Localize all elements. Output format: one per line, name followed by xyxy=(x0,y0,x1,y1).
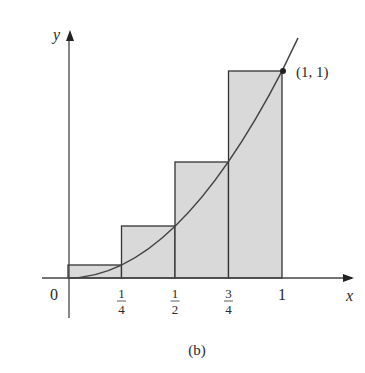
y-axis-arrow-icon xyxy=(66,30,74,41)
tick-numerator: 1 xyxy=(172,286,179,301)
origin-label: 0 xyxy=(50,286,58,303)
rectangle-1 xyxy=(68,265,122,278)
tick-label-one: 1 xyxy=(278,286,286,303)
tick-numerator: 1 xyxy=(118,286,125,301)
point-marker xyxy=(280,68,286,74)
tick-numerator: 3 xyxy=(225,286,232,301)
riemann-sum-diagram: (1, 1) y x 0 1 4 1 2 3 4 1 (b) xyxy=(0,0,365,373)
rectangle-3 xyxy=(175,162,229,278)
tick-denominator: 2 xyxy=(172,302,179,317)
tick-label-three-quarters: 3 4 xyxy=(224,286,233,317)
x-axis-label: x xyxy=(345,287,353,304)
tick-label-quarter: 1 4 xyxy=(117,286,126,317)
figure-caption: (b) xyxy=(188,342,206,359)
rectangle-4 xyxy=(229,71,283,278)
tick-denominator: 4 xyxy=(225,302,232,317)
riemann-rectangles xyxy=(68,71,282,278)
x-axis-arrow-icon xyxy=(343,274,354,282)
tick-label-half: 1 2 xyxy=(171,286,180,317)
tick-denominator: 4 xyxy=(118,302,125,317)
y-axis-label: y xyxy=(51,26,61,44)
point-label: (1, 1) xyxy=(296,64,329,81)
